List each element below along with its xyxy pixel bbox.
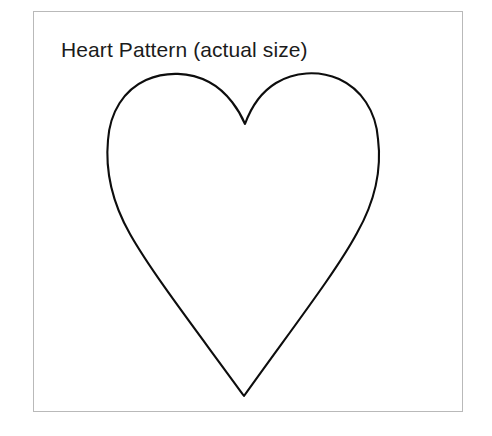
pattern-page: Heart Pattern (actual size) (0, 0, 492, 436)
page-title: Heart Pattern (actual size) (61, 37, 308, 63)
pattern-sheet-border (33, 11, 463, 412)
